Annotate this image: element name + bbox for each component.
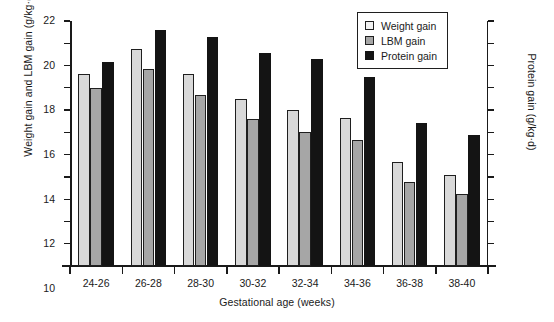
y-tick-left: 2 [64, 243, 70, 244]
y-tick-label-left: 10 [43, 282, 55, 294]
legend-swatch-weight-gain-icon [365, 21, 374, 30]
y-tick-right: 1.8 [488, 65, 494, 66]
y-axis-left-line [70, 21, 72, 266]
y-tick-left: 10 [64, 154, 70, 155]
x-tick [383, 266, 385, 274]
bar-weight [287, 110, 299, 266]
bar-weight [183, 74, 195, 266]
x-tick [122, 266, 124, 274]
chart-legend: Weight gain LBM gain Protein gain [357, 12, 448, 69]
bar-weight [392, 162, 404, 266]
y-tick-left: 8 [64, 176, 70, 177]
legend-label-weight-gain: Weight gain [381, 20, 436, 32]
y-tick-right: 1.2 [488, 132, 494, 133]
bar-protein [364, 77, 376, 266]
bar-lbm [404, 182, 416, 266]
y-tick-right: 1.4 [488, 109, 494, 110]
legend-label-protein-gain: Protein gain [381, 50, 437, 62]
x-tick [435, 266, 437, 274]
y-tick-right: 0.0 [488, 265, 494, 266]
y-tick-left: 14 [64, 109, 70, 110]
x-tick-label: 26-28 [135, 277, 162, 289]
y-tick-left: 20 [64, 43, 70, 44]
bar-protein [207, 37, 219, 266]
x-tick-label: 34-36 [344, 277, 371, 289]
y-tick-right: 1.0 [488, 154, 494, 155]
bar-weight [131, 49, 143, 266]
y-tick-label-left: 12 [43, 237, 55, 249]
bar-weight [340, 118, 352, 266]
y-tick-right: 0.8 [488, 176, 494, 177]
bar-lbm [143, 69, 155, 266]
chart-container: Weight gain and LBM gain (g/kg·d) Protei… [0, 0, 554, 322]
y-tick-left: 12 [64, 132, 70, 133]
legend-item-lbm-gain: LBM gain [365, 33, 437, 48]
x-tick [174, 266, 176, 274]
y-tick-label-left: 22 [43, 14, 55, 26]
bar-protein [102, 62, 114, 266]
x-tick [278, 266, 280, 274]
y-tick-right: 2.2 [488, 20, 494, 21]
x-tick-label: 36-38 [396, 277, 423, 289]
y-axis-right-title: Protein gain (g/kg·d) [526, 22, 538, 182]
bar-lbm [299, 132, 311, 266]
y-tick-left: 6 [64, 199, 70, 200]
bar-lbm [247, 119, 259, 266]
y-tick-left: 18 [64, 65, 70, 66]
y-tick-left: 16 [64, 87, 70, 88]
bar-lbm [352, 140, 364, 266]
legend-item-protein-gain: Protein gain [365, 48, 437, 63]
y-tick-right: 0.2 [488, 243, 494, 244]
bar-protein [468, 135, 480, 266]
legend-item-weight-gain: Weight gain [365, 18, 437, 33]
y-tick-right: 1.6 [488, 87, 494, 88]
x-tick-label: 28-30 [187, 277, 214, 289]
legend-swatch-protein-gain-icon [365, 51, 374, 60]
x-tick-label: 38-40 [448, 277, 475, 289]
y-tick-left: 22 [64, 20, 70, 21]
legend-label-lbm-gain: LBM gain [381, 35, 425, 47]
y-tick-right: 2.0 [488, 43, 494, 44]
x-tick-label: 30-32 [239, 277, 266, 289]
y-tick-right: 0.4 [488, 221, 494, 222]
y-tick-right: 0.6 [488, 199, 494, 200]
y-axis-left-title: Weight gain and LBM gain (g/kg·d) [22, 0, 34, 180]
bar-lbm [90, 88, 102, 266]
y-tick-left: 4 [64, 221, 70, 222]
y-tick-label-left: 16 [43, 148, 55, 160]
bar-protein [311, 59, 323, 266]
y-tick-label-left: 14 [43, 193, 55, 205]
x-tick [226, 266, 228, 274]
bar-weight [235, 99, 247, 266]
bar-weight [78, 74, 90, 266]
x-axis-title: Gestational age (weeks) [0, 296, 554, 308]
bar-protein [155, 30, 167, 266]
x-tick [69, 266, 71, 274]
bar-protein [259, 53, 271, 266]
x-tick-label: 32-34 [292, 277, 319, 289]
y-axis-right-line [487, 21, 489, 266]
legend-swatch-lbm-gain-icon [365, 36, 374, 45]
x-tick-label: 24-26 [83, 277, 110, 289]
bar-weight [444, 175, 456, 266]
bar-lbm [456, 194, 468, 266]
bar-protein [416, 123, 428, 266]
x-tick [487, 266, 489, 274]
y-tick-label-left: 20 [43, 59, 55, 71]
x-tick [331, 266, 333, 274]
bar-lbm [195, 95, 207, 267]
y-tick-label-left: 18 [43, 103, 55, 115]
